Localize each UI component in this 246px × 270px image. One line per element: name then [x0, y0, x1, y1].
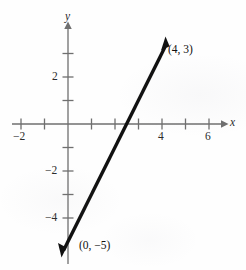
line-segment	[64, 47, 166, 251]
y-tick-label-2: 2	[52, 71, 58, 83]
y-axis	[63, 28, 74, 264]
x-tick-label-neg2: −2	[13, 131, 25, 143]
x-axis-name: x	[230, 117, 235, 129]
y-axis-name: y	[65, 11, 70, 23]
x-tick-label-6: 6	[205, 131, 211, 143]
plotted-line	[58, 37, 170, 258]
annotation-lower-point: (0, −5)	[79, 240, 110, 252]
annotation-upper-point: (4, 3)	[168, 44, 193, 56]
y-tick-label-neg4: −4	[45, 212, 57, 224]
y-tick-label-neg2: −2	[45, 165, 57, 177]
x-axis	[12, 119, 222, 130]
x-tick-label-4: 4	[158, 131, 164, 143]
graph-screenshot: −2 4 6 2 −2 −4 y x (4, 3) (0, −5)	[0, 0, 246, 270]
